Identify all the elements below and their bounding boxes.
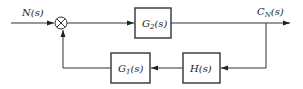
block-diagram: N(s) G2(s) CN(s) H(s) G1(s) bbox=[0, 0, 303, 89]
summing-junction bbox=[55, 17, 67, 29]
output-label: CN(s) bbox=[257, 6, 284, 19]
block-g1: G1(s) bbox=[111, 53, 150, 83]
feedback-line-to-junction bbox=[63, 30, 111, 68]
block-h: H(s) bbox=[183, 53, 220, 83]
block-g2: G2(s) bbox=[135, 8, 171, 38]
svg-text:H(s): H(s) bbox=[189, 63, 212, 74]
input-label: N(s) bbox=[21, 7, 44, 18]
feedback-line-to-h bbox=[221, 23, 266, 68]
